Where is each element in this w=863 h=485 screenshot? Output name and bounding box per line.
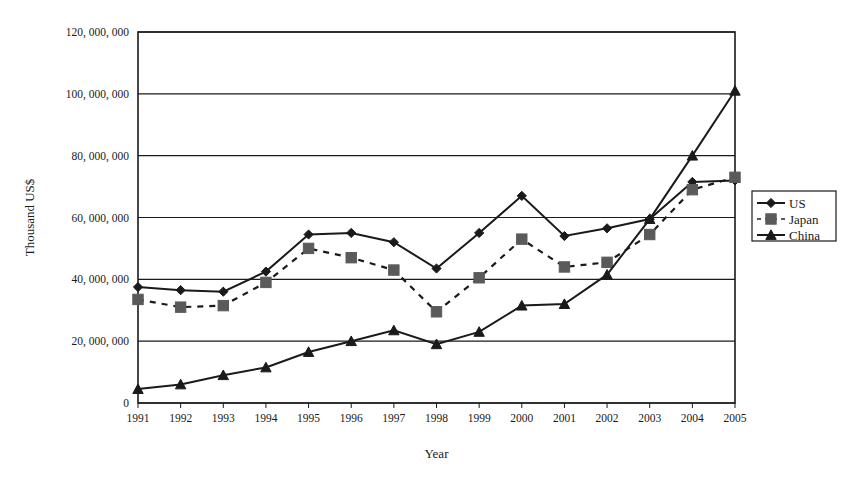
data-point-marker (687, 184, 697, 194)
y-axis-tick-label: 20, 000, 000 (72, 335, 130, 348)
legend-label-china: China (789, 228, 820, 243)
data-point-marker (346, 252, 356, 262)
data-point-marker (218, 300, 228, 310)
data-point-marker (347, 228, 356, 237)
x-axis-tick-label: 1996 (340, 412, 363, 424)
data-point-marker (303, 243, 313, 253)
data-point-marker (389, 265, 399, 275)
x-axis-tick-label: 2001 (553, 412, 576, 424)
data-point-marker (602, 257, 612, 267)
data-point-marker (133, 282, 142, 291)
data-point-marker (645, 229, 655, 239)
y-axis-tick-label: 100, 000, 000 (66, 88, 130, 101)
legend-label-japan: Japan (789, 212, 819, 227)
data-point-marker (389, 325, 399, 335)
y-axis-tick-label: 60, 000, 000 (72, 212, 130, 225)
data-point-marker (474, 273, 484, 283)
data-point-marker (431, 307, 441, 317)
x-axis-title: Year (425, 446, 450, 461)
y-axis-tick-label: 40, 000, 000 (72, 273, 130, 286)
data-point-marker (559, 262, 569, 272)
line-chart: 120, 000, 000100, 000, 00080, 000, 00060… (0, 0, 863, 485)
x-axis-tick-label: 1991 (127, 412, 150, 424)
x-axis-tick-label: 2000 (510, 412, 533, 424)
x-axis-tick-label: 1994 (254, 412, 277, 424)
data-point-marker (219, 287, 228, 296)
x-axis: 1991199219931994199519961997199819992000… (127, 403, 747, 424)
x-axis-tick-label: 1993 (212, 412, 235, 424)
x-axis-tick-label: 2003 (638, 412, 661, 424)
data-point-marker (517, 234, 527, 244)
data-point-marker (176, 286, 185, 295)
data-point-marker (474, 327, 484, 337)
chart-legend: USJapanChina (752, 191, 836, 243)
data-point-marker (133, 294, 143, 304)
y-axis-title: Thousand US$ (22, 178, 37, 256)
x-axis-tick-label: 2004 (681, 412, 704, 424)
y-axis-tick-label: 80, 000, 000 (72, 150, 130, 163)
x-axis-tick-label: 1998 (425, 412, 448, 424)
x-axis-tick-label: 1992 (169, 412, 192, 424)
data-point-marker (730, 86, 740, 96)
data-point-marker (766, 214, 776, 224)
data-point-marker (730, 172, 740, 182)
y-axis-tick-label: 120, 000, 000 (66, 26, 130, 39)
x-axis-tick-label: 1995 (297, 412, 320, 424)
x-axis-tick-label: 2002 (596, 412, 619, 424)
legend-label-us: US (789, 196, 806, 211)
y-axis-tick-label: 0 (123, 397, 129, 409)
data-point-marker (389, 238, 398, 247)
x-axis-tick-label: 2005 (724, 412, 747, 424)
x-axis-tick-label: 1999 (468, 412, 491, 424)
chart-figure: 120, 000, 000100, 000, 00080, 000, 00060… (0, 0, 863, 485)
data-point-marker (175, 302, 185, 312)
x-axis-tick-label: 1997 (382, 412, 405, 424)
data-point-marker (602, 224, 611, 233)
data-point-marker (261, 277, 271, 287)
y-gridlines: 120, 000, 000100, 000, 00080, 000, 00060… (66, 26, 735, 409)
